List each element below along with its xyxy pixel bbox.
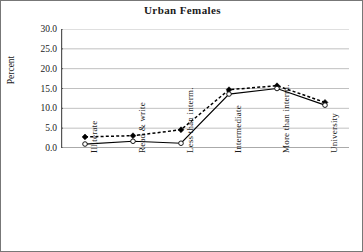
y-axis-tick-label: 25.0 (13, 44, 57, 53)
data-point (323, 103, 328, 108)
x-axis-tick-label: Illiterate (89, 121, 99, 153)
plot-area (61, 29, 349, 148)
data-point (82, 134, 88, 140)
x-axis-tick-label: Intermediate (233, 105, 243, 153)
y-axis-tick-label: 15.0 (13, 84, 57, 93)
y-axis-tick-label: 20.0 (13, 64, 57, 73)
data-point (275, 86, 280, 91)
gridlines (61, 29, 349, 128)
data-point (130, 133, 136, 139)
y-axis-tick-label: 5.0 (13, 124, 57, 133)
x-axis-tick-label: Read & write (137, 102, 147, 153)
chart-title: Urban Females (1, 4, 363, 16)
chart-frame: Urban Females Percent 0.05.010.015.020.0… (0, 0, 363, 252)
chart-svg (61, 29, 349, 148)
y-axis-tick-labels: 0.05.010.015.020.025.030.0 (11, 29, 57, 148)
data-point (83, 142, 88, 147)
data-point (131, 139, 136, 144)
x-axis-tick-label: Less than interm. (185, 87, 195, 153)
x-axis-tick-label: University (329, 113, 339, 153)
y-axis-tick-label: 0.0 (13, 144, 57, 153)
y-axis-tick-label: 10.0 (13, 104, 57, 113)
data-series-layer (82, 83, 328, 147)
y-axis-tick-label: 30.0 (13, 25, 57, 34)
x-axis-tick-labels: IlliterateRead & writeLess than interm.I… (61, 151, 349, 251)
data-point (179, 141, 184, 146)
data-point (227, 92, 232, 97)
x-axis-tick-label: More than interm. (281, 84, 291, 153)
